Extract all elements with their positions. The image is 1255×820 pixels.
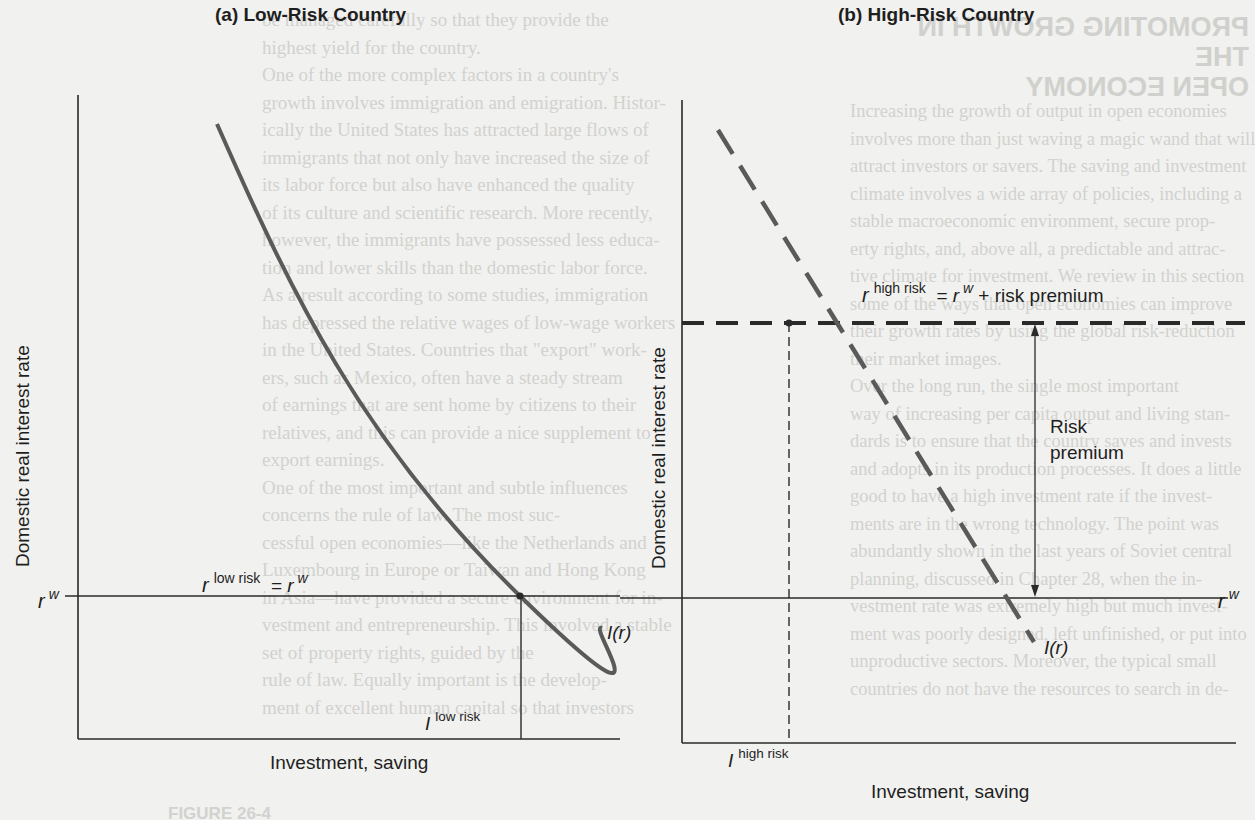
investment-superscript: high risk xyxy=(738,746,788,761)
risk-premium-label-line: premium xyxy=(1050,440,1124,466)
panel-a-title: (a) Low-Risk Country xyxy=(215,4,406,26)
rate-superscript: high risk xyxy=(874,280,926,296)
panel-a-curve-label: I(r) xyxy=(607,622,631,644)
panel-a-graphics xyxy=(65,95,620,739)
rate-superscript: w xyxy=(298,570,308,586)
rate-superscript: low risk xyxy=(214,570,261,586)
investment-symbol: I xyxy=(425,713,430,734)
risk-premium-label: Risk premium xyxy=(1050,414,1124,466)
equation-rhs: = r xyxy=(936,285,959,306)
rate-symbol: r xyxy=(202,574,209,596)
panel-b-x-axis-label: Investment, saving xyxy=(871,781,1029,803)
panel-b-world-rate-axis-label: rw xyxy=(1218,590,1239,613)
investment-superscript: low risk xyxy=(435,709,480,724)
panel-b-curve-label: I(r) xyxy=(1044,637,1068,659)
panel-a-y-axis-label: Domestic real interest rate xyxy=(12,345,34,567)
panel-b-investment-curve xyxy=(718,130,1034,642)
rate-symbol: r xyxy=(38,590,45,612)
rate-symbol: r xyxy=(1218,590,1225,612)
panel-b-equilibrium-point xyxy=(785,319,792,326)
rate-superscript: w xyxy=(1229,586,1239,602)
panel-b-rate-equation: rhigh risk = rw + risk premium xyxy=(862,284,1103,307)
risk-premium-arrow-up-icon xyxy=(1031,324,1039,336)
panel-a-rate-equation: rlow risk = rw xyxy=(202,574,308,597)
panel-b-y-axis-label: Domestic real interest rate xyxy=(648,347,670,569)
panel-b-graphics xyxy=(620,100,1245,743)
panel-b-investment-label: Ihigh risk xyxy=(728,750,789,772)
risk-premium-term: + risk premium xyxy=(973,285,1103,306)
panel-a-x-axis-label: Investment, saving xyxy=(270,752,428,774)
rate-symbol: r xyxy=(862,284,869,306)
panel-a-investment-label: Ilow risk xyxy=(425,713,480,735)
panel-b-title: (b) High-Risk Country xyxy=(838,4,1034,26)
panel-a-world-rate-axis-label: rw xyxy=(38,590,59,613)
panel-a-equilibrium-point xyxy=(516,592,523,599)
risk-premium-label-line: Risk xyxy=(1050,414,1124,440)
investment-symbol: I xyxy=(728,750,733,771)
rate-superscript: w xyxy=(963,280,973,296)
equation-rhs: = r xyxy=(271,575,294,596)
rate-superscript: w xyxy=(49,586,59,602)
risk-premium-arrow-down-icon xyxy=(1031,585,1039,597)
